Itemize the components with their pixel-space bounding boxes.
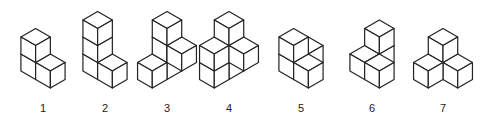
- figure-4: [200, 12, 259, 89]
- figure-2: [83, 12, 127, 89]
- figure-3: [138, 12, 197, 89]
- figures-canvas: [0, 0, 494, 118]
- figure-label: 7: [433, 102, 453, 114]
- figure-5: [279, 29, 323, 89]
- figure-label: 4: [219, 102, 239, 114]
- figure-7: [414, 29, 473, 89]
- figure-label: 2: [95, 102, 115, 114]
- figure-6: [350, 20, 394, 88]
- figure-label: 3: [157, 102, 177, 114]
- figure-1: [21, 29, 65, 89]
- figure-label: 5: [291, 102, 311, 114]
- figure-label: 1: [33, 102, 53, 114]
- figure-label: 6: [362, 102, 382, 114]
